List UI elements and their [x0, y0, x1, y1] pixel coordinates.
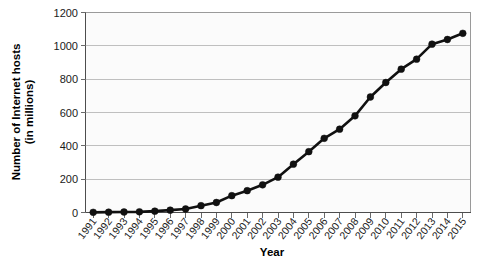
data-point-2011 [398, 66, 405, 73]
data-point-1992 [105, 209, 112, 216]
data-point-2000 [228, 192, 235, 199]
data-point-1994 [136, 208, 143, 215]
internet-hosts-line-chart: 1200 1000 800 600 400 200 0 Number of In… [0, 0, 481, 269]
data-point-2013 [429, 41, 436, 48]
data-point-2010 [382, 79, 389, 86]
y-tick-label-1200: 1200 [54, 7, 78, 19]
data-point-2001 [244, 187, 251, 194]
y-tick-labels: 1200 1000 800 600 400 200 0 [54, 7, 78, 219]
data-point-2003 [275, 174, 282, 181]
data-point-2004 [290, 161, 297, 168]
data-point-1998 [198, 202, 205, 209]
data-point-1995 [151, 208, 158, 215]
data-point-2002 [259, 181, 266, 188]
y-tick-label-400: 400 [60, 140, 78, 152]
data-point-2012 [413, 56, 420, 63]
chart-canvas: 1200 1000 800 600 400 200 0 Number of In… [0, 0, 481, 269]
y-axis-title-line2: (in millions) [23, 80, 35, 145]
y-tick-label-0: 0 [72, 207, 78, 219]
data-point-2015 [459, 30, 466, 37]
y-tick-label-600: 600 [60, 107, 78, 119]
y-tickmarks [81, 13, 86, 213]
y-tick-label-1000: 1000 [54, 40, 78, 52]
data-point-2008 [352, 112, 359, 119]
data-point-2006 [321, 135, 328, 142]
y-axis-title-line1: Number of Internet hosts [10, 44, 22, 181]
data-point-2005 [305, 148, 312, 155]
data-point-1991 [90, 209, 97, 216]
data-point-2009 [367, 94, 374, 101]
data-point-1996 [167, 207, 174, 214]
data-point-2007 [336, 126, 343, 133]
data-point-1997 [182, 206, 189, 213]
data-point-2014 [444, 36, 451, 43]
y-tick-label-800: 800 [60, 73, 78, 85]
y-tick-label-200: 200 [60, 173, 78, 185]
data-point-1993 [121, 209, 128, 216]
x-tick-labels: 1991199219931994199519961997199819992000… [75, 215, 469, 241]
y-axis-title: Number of Internet hosts (in millions) [10, 44, 35, 181]
data-point-1999 [213, 199, 220, 206]
x-axis-title: Year [260, 246, 285, 258]
